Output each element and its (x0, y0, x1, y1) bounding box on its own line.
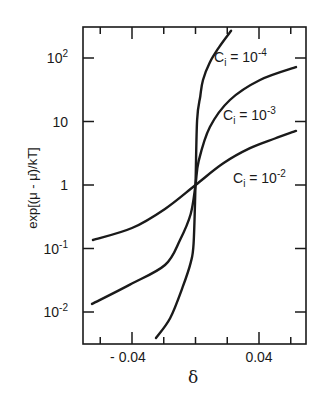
curve-labels: Ci = 10-4Ci = 10-3Ci = 10-2 (214, 47, 286, 189)
y-axis-label: exp[(μ - μ̄)/kT] (25, 147, 40, 228)
curve-label: Ci = 10-3 (223, 105, 276, 126)
chart: 10-210-1110102 - 0.040.04 Ci = 10-4Ci = … (0, 0, 322, 403)
curve-label: Ci = 10-4 (214, 47, 267, 68)
y-tick-label: 1 (60, 177, 68, 193)
x-tick-label: 0.04 (245, 349, 272, 365)
y-tick-label: 10 (52, 114, 68, 130)
curve-label: Ci = 10-2 (233, 168, 286, 189)
x-tick-label: - 0.04 (110, 349, 146, 365)
y-tick-label: 10-2 (44, 302, 69, 320)
y-tick-labels: 10-210-1110102 (44, 48, 69, 320)
x-tick-labels: - 0.040.04 (110, 349, 273, 365)
y-tick-label: 10-1 (44, 239, 69, 257)
x-axis-label: δ (188, 367, 198, 387)
y-tick-label: 102 (47, 48, 69, 66)
curve-ci-1e-4 (156, 31, 231, 338)
